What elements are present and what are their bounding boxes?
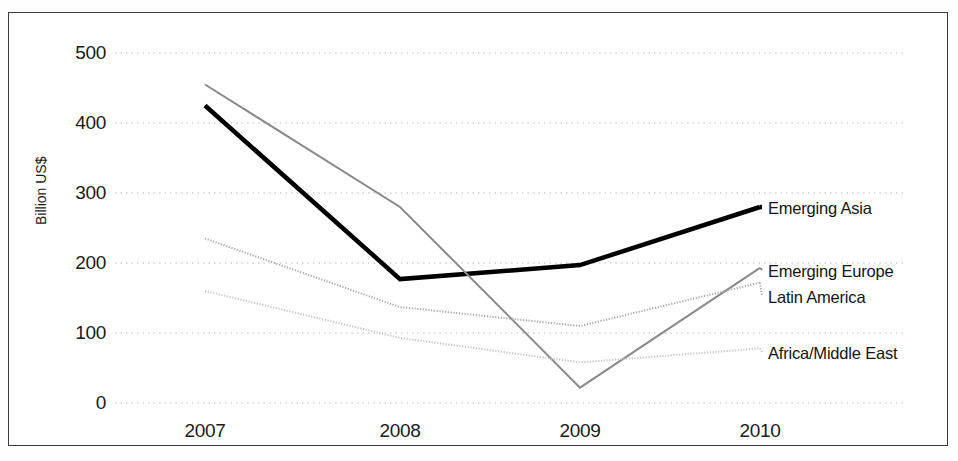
series-label-connector — [760, 268, 762, 270]
chart-canvas — [0, 0, 958, 461]
y-tick-300: 300 — [46, 182, 106, 204]
y-tick-200: 200 — [46, 252, 106, 274]
y-tick-400: 400 — [46, 112, 106, 134]
data-lines — [205, 85, 762, 388]
series-label-latin-america: Latin America — [768, 288, 865, 307]
series-line-emerging-asia — [205, 106, 760, 280]
chart-figure: 500 400 300 200 100 0 2007 2008 2009 201… — [0, 0, 958, 461]
series-label-connector — [760, 283, 762, 296]
series-label-africa-middle-east: Africa/Middle East — [768, 344, 897, 363]
y-tick-500: 500 — [46, 42, 106, 64]
x-tick-2009: 2009 — [540, 420, 620, 442]
y-axis-title: Billion US$ — [33, 157, 49, 225]
y-tick-0: 0 — [46, 392, 106, 414]
x-tick-2010: 2010 — [720, 420, 800, 442]
series-line-latin-america — [205, 239, 760, 327]
series-label-connector — [760, 348, 762, 352]
y-tick-100: 100 — [46, 322, 106, 344]
x-tick-2007: 2007 — [165, 420, 245, 442]
plot-area: 500 400 300 200 100 0 2007 2008 2009 201… — [0, 0, 958, 461]
series-label-emerging-asia: Emerging Asia — [768, 199, 872, 218]
x-tick-2008: 2008 — [360, 420, 440, 442]
series-label-emerging-europe: Emerging Europe — [768, 262, 893, 281]
